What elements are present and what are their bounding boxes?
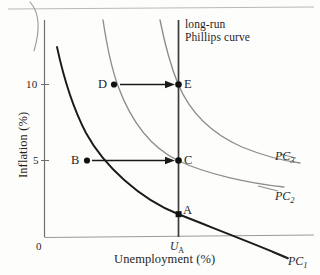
- data-point-e: [175, 81, 182, 88]
- curve-label-pc1: PC1: [288, 255, 308, 271]
- curve-pc1: [57, 47, 288, 258]
- scan-artifact-top-rule: [8, 7, 314, 9]
- pc2-subscript: 2: [290, 195, 294, 205]
- point-label-a: A: [183, 203, 192, 217]
- point-label-e: E: [184, 77, 192, 91]
- phillips-curve-figure: 10 5 0 Inflation (%) Unemployment (%) UA…: [0, 0, 320, 275]
- leader-line-pc1: [272, 252, 288, 259]
- data-point-d: [111, 81, 117, 87]
- curve-label-pc3: PC3: [275, 150, 295, 166]
- pc1-base: PC: [288, 254, 303, 268]
- lrpc-label-line2: Phillips curve: [185, 31, 250, 44]
- arrow-d-to-e-head: [165, 81, 175, 88]
- pc1-subscript: 1: [303, 260, 307, 270]
- y-tick-label-10: 10: [26, 78, 37, 90]
- point-label-c: C: [184, 153, 192, 167]
- pc3-base: PC: [275, 149, 290, 163]
- point-label-b: B: [71, 153, 79, 167]
- ua-subscript: A: [178, 246, 184, 255]
- pc3-subscript: 3: [290, 155, 294, 165]
- x-tick-label-ua: UA: [170, 240, 184, 256]
- point-label-d: D: [98, 77, 107, 91]
- data-point-a: [176, 211, 182, 217]
- lrpc-label-line1: long-run: [185, 18, 250, 31]
- pc2-base: PC: [275, 189, 290, 203]
- curve-label-pc2: PC2: [275, 190, 295, 206]
- figure-canvas: [0, 0, 320, 275]
- y-axis-title: Inflation (%): [16, 112, 30, 178]
- long-run-phillips-curve-label: long-run Phillips curve: [185, 18, 250, 44]
- data-point-b: [84, 157, 90, 163]
- x-axis-title: Unemployment (%): [114, 252, 215, 266]
- curve-pc2: [103, 20, 284, 187]
- y-tick-label-5: 5: [33, 154, 39, 166]
- data-point-c: [175, 157, 182, 164]
- origin-label: 0: [36, 240, 42, 252]
